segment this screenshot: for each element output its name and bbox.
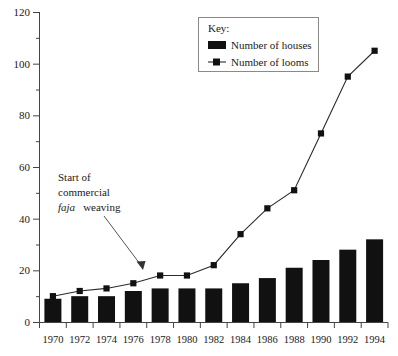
looms-point-1984	[237, 231, 243, 237]
x-tick-label: 1994	[364, 334, 386, 345]
legend-label-houses: Number of houses	[231, 39, 312, 51]
annotation-arrow-head	[137, 261, 146, 270]
y-tick-label: 40	[19, 213, 31, 225]
grouped-bar-line-chart: 020406080100120 197019721974197619781980…	[0, 0, 398, 356]
looms-point-1974	[103, 285, 109, 291]
legend-title: Key:	[208, 22, 229, 34]
y-tick-marks	[33, 13, 40, 323]
y-tick-labels: 020406080100120	[14, 6, 31, 328]
looms-point-1982	[211, 262, 217, 268]
annotation-weaving-word: weaving	[83, 201, 121, 213]
x-tick-label: 1988	[284, 334, 305, 345]
bar-1978	[152, 288, 169, 322]
looms-point-1986	[264, 205, 270, 211]
legend-marker-looms	[213, 59, 220, 66]
legend-swatch-houses	[208, 41, 226, 49]
x-tick-label: 1980	[176, 334, 197, 345]
x-axis: 1970197219741976197819801982198419861988…	[40, 323, 389, 346]
bar-1988	[286, 268, 303, 322]
bar-1972	[71, 296, 88, 322]
looms-point-1970	[50, 293, 56, 299]
bar-series-number-of-houses	[44, 239, 383, 322]
x-tick-label: 1970	[42, 334, 63, 345]
legend: Key: Number of houses Number of looms	[199, 18, 319, 72]
chart-container: 020406080100120 197019721974197619781980…	[0, 0, 398, 356]
looms-point-1978	[157, 272, 163, 278]
bar-1984	[232, 283, 249, 322]
x-tick-label: 1990	[310, 334, 331, 345]
y-tick-label: 0	[25, 316, 31, 328]
looms-point-1972	[77, 288, 83, 294]
looms-point-1994	[371, 48, 377, 54]
bar-1992	[339, 250, 356, 322]
y-axis: 020406080100120	[14, 6, 40, 328]
x-tick-label: 1972	[69, 334, 90, 345]
bar-1980	[178, 288, 195, 322]
annotation-italic-faja: faja	[58, 201, 76, 213]
y-tick-label: 60	[19, 161, 31, 173]
y-tick-label: 80	[19, 109, 31, 121]
bar-1970	[44, 299, 61, 322]
y-tick-label: 100	[14, 58, 31, 70]
annotation-start-of-commercial-faja-weaving: Start of commercial faja weaving	[58, 171, 146, 270]
x-tick-label: 1986	[257, 334, 278, 345]
y-tick-label: 20	[19, 264, 31, 276]
looms-point-1992	[345, 73, 351, 79]
annotation-arrow-line	[104, 216, 143, 268]
bar-1976	[125, 291, 142, 322]
x-tick-labels: 1970197219741976197819801982198419861988…	[42, 334, 385, 345]
bar-1982	[205, 288, 222, 322]
x-tick-label: 1984	[230, 334, 252, 345]
x-tick-label: 1978	[150, 334, 171, 345]
bar-1990	[312, 260, 329, 322]
bar-1974	[98, 296, 115, 322]
looms-line-path	[53, 51, 375, 296]
annotation-line-1: Start of	[58, 171, 91, 183]
annotation-line-3: faja weaving	[58, 197, 121, 214]
looms-point-1976	[130, 280, 136, 286]
bar-1986	[259, 278, 276, 322]
y-tick-label: 120	[14, 6, 31, 18]
looms-point-1990	[318, 130, 324, 136]
x-tick-label: 1976	[123, 334, 144, 345]
x-tick-label: 1974	[96, 334, 118, 345]
x-tick-marks	[40, 323, 389, 329]
x-tick-label: 1992	[337, 334, 358, 345]
x-tick-label: 1982	[203, 334, 224, 345]
legend-label-looms: Number of looms	[231, 56, 309, 68]
bar-1994	[366, 239, 383, 322]
looms-point-1980	[184, 272, 190, 278]
looms-point-1988	[291, 187, 297, 193]
annotation-line-2: commercial	[58, 186, 110, 198]
